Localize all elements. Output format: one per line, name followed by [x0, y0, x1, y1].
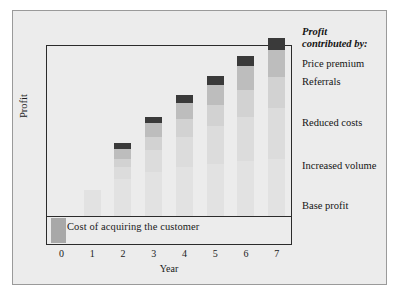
segment-reduced-costs — [145, 137, 162, 150]
x-tick-6: 6 — [236, 248, 256, 259]
segment-increased-volume — [145, 150, 162, 172]
segment-base-profit — [114, 179, 131, 216]
segment-referrals — [145, 123, 162, 137]
legend-item-referrals: Referrals — [302, 76, 340, 87]
segment-base-profit — [145, 172, 162, 216]
bar-year-2 — [114, 143, 131, 216]
segment-referrals — [237, 66, 254, 90]
segment-reduced-costs — [268, 77, 285, 108]
segment-increased-volume — [237, 117, 254, 161]
segment-base-profit — [237, 161, 254, 216]
x-tick-1: 1 — [82, 248, 102, 259]
segment-referrals — [268, 50, 285, 78]
segment-reduced-costs — [176, 119, 193, 137]
legend-title-line-1: Profit — [302, 26, 327, 37]
bar-year-3 — [145, 117, 162, 216]
segment-increased-volume — [207, 126, 224, 163]
acquisition-cost-label: Cost of acquiring the customer — [67, 221, 199, 232]
stacked-bars-group — [46, 45, 292, 216]
segment-reduced-costs — [237, 90, 254, 117]
segment-increased-volume — [114, 167, 131, 179]
segment-base-profit — [268, 159, 285, 216]
bar-year-7 — [268, 38, 285, 216]
segment-increased-volume — [268, 108, 285, 159]
segment-referrals — [176, 103, 193, 120]
bar-year-5 — [207, 76, 224, 216]
legend-item-reduced-costs: Reduced costs — [302, 117, 362, 128]
legend-item-increased-volume: Increased volume — [302, 160, 376, 171]
segment-base-profit — [84, 190, 101, 216]
x-tick-5: 5 — [205, 248, 225, 259]
segment-price-premium — [207, 76, 224, 85]
legend-item-price-premium: Price premium — [302, 58, 364, 69]
legend-title-line-2: contributed by: — [302, 38, 368, 49]
legend-item-base-profit: Base profit — [302, 200, 348, 211]
x-tick-2: 2 — [113, 248, 133, 259]
bar-year-1 — [84, 190, 101, 216]
bar-year-6 — [237, 56, 254, 216]
x-axis-title: Year — [0, 263, 338, 274]
segment-price-premium — [145, 117, 162, 124]
segment-base-profit — [207, 164, 224, 216]
segment-price-premium — [268, 38, 285, 50]
y-axis-title: Profit — [18, 94, 29, 118]
segment-referrals — [114, 149, 131, 159]
zero-line — [46, 216, 292, 217]
segment-reduced-costs — [207, 105, 224, 127]
segment-increased-volume — [176, 137, 193, 167]
segment-price-premium — [176, 95, 193, 103]
x-tick-0: 0 — [51, 248, 71, 259]
x-tick-3: 3 — [144, 248, 164, 259]
acquisition-cost-bar — [51, 218, 66, 243]
segment-reduced-costs — [114, 159, 131, 167]
x-tick-7: 7 — [267, 248, 287, 259]
segment-referrals — [207, 85, 224, 105]
figure-root: Cost of acquiring the customer Profit Ye… — [0, 0, 400, 295]
x-tick-4: 4 — [174, 248, 194, 259]
segment-base-profit — [176, 167, 193, 216]
bar-year-4 — [176, 95, 193, 216]
segment-price-premium — [237, 56, 254, 66]
